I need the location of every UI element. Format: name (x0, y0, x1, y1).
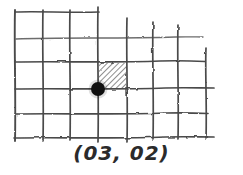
marked-point (89, 80, 108, 99)
grid-vline-0 (15, 10, 16, 141)
grid-vline-2 (70, 10, 71, 141)
grid-vline-7 (206, 48, 207, 138)
coordinate-caption: (03, 02) (0, 140, 243, 166)
grid-vline-3 (98, 8, 99, 142)
grid-vline-5 (153, 22, 154, 140)
grid-hline-0 (15, 12, 99, 13)
grid-vline-6 (178, 25, 179, 139)
point-dot-halo (89, 80, 108, 99)
grid-vline-4 (127, 18, 128, 141)
figure-root: (03, 02) (0, 0, 243, 175)
grid-vline-1 (43, 10, 44, 141)
